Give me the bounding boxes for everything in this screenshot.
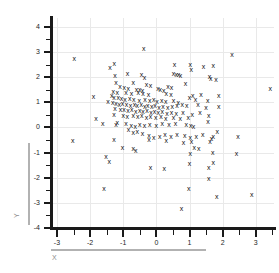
x-axis-minor-tick <box>173 230 174 235</box>
x-axis-line <box>50 227 276 230</box>
y-axis-minor-tick <box>46 190 51 191</box>
x-axis-minor-tick <box>107 230 108 235</box>
y-axis-tick <box>44 227 51 229</box>
x-axis-minor-tick <box>272 230 273 235</box>
data-point: x <box>90 93 96 100</box>
x-axis-minor-tick <box>239 230 240 235</box>
x-axis-tick <box>122 230 124 237</box>
y-axis-tick <box>44 51 51 53</box>
data-point: x <box>107 64 113 71</box>
x-axis-tick <box>255 230 257 237</box>
y-axis-minor-tick <box>46 215 51 216</box>
y-axis-minor-tick <box>46 115 51 116</box>
data-point: x <box>71 55 77 62</box>
data-point: x <box>147 164 153 171</box>
gridline-vertical <box>256 18 257 228</box>
data-point: x <box>205 118 211 125</box>
data-point: x <box>206 175 212 182</box>
data-point: x <box>100 120 106 127</box>
y-axis-title: Y <box>13 213 20 218</box>
data-point: x <box>229 51 235 58</box>
data-point: x <box>178 72 184 79</box>
data-point: x <box>181 139 187 146</box>
data-point: x <box>214 193 220 200</box>
y-axis-tick-label: 4 <box>20 23 40 30</box>
x-axis-minor-tick <box>206 230 207 235</box>
data-point: x <box>198 91 204 98</box>
data-point: x <box>183 80 189 87</box>
x-axis-minor-tick <box>74 230 75 235</box>
y-axis-tick-label: 0 <box>20 123 40 130</box>
x-axis-tick-label: 2 <box>213 239 233 246</box>
x-axis-tick-label: -1 <box>113 239 133 246</box>
x-axis-tick-label: 3 <box>246 239 266 246</box>
y-axis-tick <box>44 126 51 128</box>
data-point: x <box>114 119 120 126</box>
gridline-horizontal <box>52 27 274 28</box>
y-axis-minor-tick <box>46 39 51 40</box>
data-point: x <box>206 164 212 171</box>
data-point: x <box>200 131 206 138</box>
gridline-vertical <box>90 18 91 228</box>
y-axis-tick <box>44 26 51 28</box>
data-point: x <box>234 150 240 157</box>
gridline-horizontal <box>52 178 274 179</box>
gridline-horizontal <box>52 127 274 128</box>
data-point: x <box>187 160 193 167</box>
y-axis-minor-tick <box>46 140 51 141</box>
x-axis-tick-label: -3 <box>47 239 67 246</box>
data-point: x <box>172 61 178 68</box>
data-point: x <box>139 130 145 137</box>
y-axis-tick-label: -3 <box>20 199 40 206</box>
x-axis-tick <box>189 230 191 237</box>
x-axis-tick-label: -2 <box>80 239 100 246</box>
data-point: x <box>141 45 147 52</box>
y-axis-tick <box>44 202 51 204</box>
data-point: x <box>173 120 179 127</box>
data-point: x <box>200 63 206 70</box>
data-point: x <box>111 136 117 143</box>
y-axis-minor-tick <box>46 90 51 91</box>
gridline-vertical <box>57 18 58 228</box>
data-point: x <box>216 103 222 110</box>
y-axis-tick-label: 3 <box>20 48 40 55</box>
data-point: x <box>235 133 241 140</box>
x-axis-tick <box>155 230 157 237</box>
data-point: x <box>147 82 153 89</box>
data-point: x <box>267 85 273 92</box>
data-point: x <box>207 138 213 145</box>
gridline-horizontal <box>52 153 274 154</box>
data-point: x <box>186 185 192 192</box>
data-point: x <box>196 145 202 152</box>
x-axis-title: X <box>52 254 57 261</box>
y-axis-tick <box>44 101 51 103</box>
y-axis-line <box>50 16 53 230</box>
data-point: x <box>216 92 222 99</box>
data-point: x <box>166 121 172 128</box>
y-axis-minor-tick <box>46 165 51 166</box>
data-point: x <box>146 136 152 143</box>
y-axis-title-rule <box>28 143 30 225</box>
y-axis-tick-label: 2 <box>20 73 40 80</box>
data-point: x <box>159 120 165 127</box>
x-axis-minor-tick <box>140 230 141 235</box>
x-axis-title-rule <box>51 249 206 251</box>
gridline-horizontal <box>52 52 274 53</box>
data-point: x <box>203 104 209 111</box>
data-point: x <box>213 76 219 83</box>
data-point: x <box>125 70 131 77</box>
data-point: x <box>70 137 76 144</box>
data-point: x <box>249 191 255 198</box>
data-point: x <box>197 109 203 116</box>
y-axis-tick-label: -2 <box>20 174 40 181</box>
data-point: x <box>163 137 169 144</box>
y-axis-tick-label: -4 <box>20 224 40 231</box>
y-axis-tick-label: 1 <box>20 98 40 105</box>
data-point: x <box>210 149 216 156</box>
y-axis-minor-tick <box>46 65 51 66</box>
gridline-horizontal <box>52 77 274 78</box>
data-point: x <box>179 205 185 212</box>
x-axis-tick <box>222 230 224 237</box>
data-point: x <box>187 150 193 157</box>
data-point: x <box>214 128 220 135</box>
